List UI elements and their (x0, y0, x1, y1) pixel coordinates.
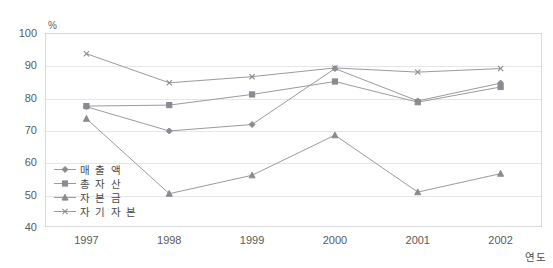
triangle-marker (332, 132, 338, 138)
y-tick-60: 60 (3, 156, 37, 168)
y-tick-40: 40 (3, 221, 37, 233)
triangle-marker (53, 192, 77, 203)
series-line (86, 69, 500, 131)
x-tick-1998: 1998 (157, 234, 181, 246)
triangle-marker (83, 115, 89, 121)
y-tick-70: 70 (3, 124, 37, 136)
legend-item-1[interactable]: 총 자 산 (53, 177, 137, 190)
legend-label: 매 출 액 (80, 162, 122, 177)
triangle-marker (249, 172, 255, 178)
x-axis-title: 연도 (525, 249, 547, 264)
series-1 (84, 79, 503, 109)
y-tick-80: 80 (3, 92, 37, 104)
y-tick-100: 100 (3, 27, 37, 39)
y-axis-unit-label: % (48, 20, 57, 31)
chart-legend: 매 출 액총 자 산자 본 금자 기 자 본 (53, 163, 137, 218)
legend-item-0[interactable]: 매 출 액 (53, 163, 137, 176)
x-marker (84, 51, 89, 56)
square-marker (84, 103, 89, 108)
series-line (86, 82, 500, 107)
legend-label: 자 기 자 본 (80, 204, 137, 219)
square-marker (53, 178, 77, 189)
x-tick-2002: 2002 (488, 234, 512, 246)
y-tick-90: 90 (3, 59, 37, 71)
y-tick-50: 50 (3, 189, 37, 201)
x-tick-2001: 2001 (406, 234, 430, 246)
square-marker (415, 100, 420, 105)
series-0 (83, 66, 503, 134)
x-tick-2000: 2000 (323, 234, 347, 246)
series-3 (84, 51, 503, 85)
diamond-marker (53, 164, 77, 175)
legend-item-3[interactable]: 자 기 자 본 (53, 205, 137, 218)
x-marker (53, 206, 77, 217)
legend-label: 자 본 금 (80, 190, 122, 205)
diamond-marker (166, 128, 172, 134)
square-marker (249, 92, 254, 97)
series-2 (83, 115, 503, 196)
x-tick-1997: 1997 (74, 234, 98, 246)
series-line (86, 54, 500, 83)
x-tick-1999: 1999 (240, 234, 264, 246)
triangle-marker (498, 170, 504, 176)
chart-container: % 100908070605040 1997199819992000200120… (0, 0, 553, 268)
square-marker (332, 79, 337, 84)
square-marker (167, 103, 172, 108)
diamond-marker (62, 167, 68, 173)
series-line (86, 119, 500, 194)
square-marker (62, 181, 67, 186)
square-marker (498, 84, 503, 89)
legend-label: 총 자 산 (80, 176, 122, 191)
diamond-marker (249, 122, 255, 128)
legend-item-2[interactable]: 자 본 금 (53, 191, 137, 204)
